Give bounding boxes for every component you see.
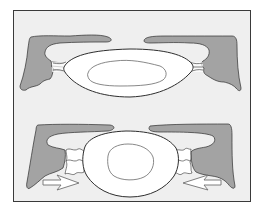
top-panel (20, 35, 241, 97)
bottom-panel (27, 124, 235, 197)
right-pointing-arrow-icon (43, 175, 79, 190)
top-inner-core (88, 60, 167, 86)
bottom-left-wavy-connector (65, 149, 84, 175)
vertebra-compression-diagram (0, 0, 264, 223)
bottom-inner-core (108, 144, 154, 180)
left-pointing-arrow-icon (183, 175, 221, 190)
